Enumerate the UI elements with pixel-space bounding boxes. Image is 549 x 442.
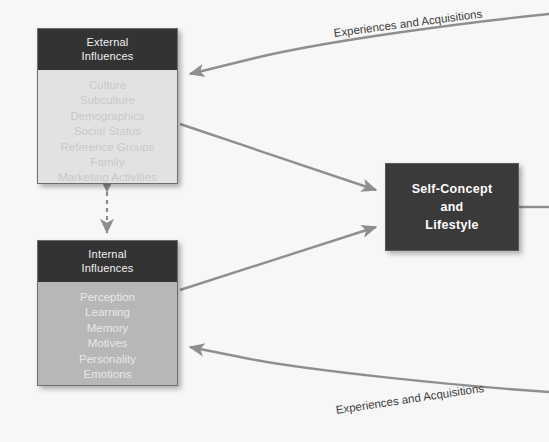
list-item: Subculture: [38, 93, 177, 108]
list-item: Attitudes: [38, 382, 177, 385]
list-item: Culture: [38, 78, 177, 93]
list-item: Social Status: [38, 124, 177, 139]
external-influences-list: Culture Subculture Demographics Social S…: [38, 70, 177, 183]
diagram-canvas: External Influences Culture Subculture D…: [0, 0, 549, 442]
feedback-label-bottom: Experiences and Acquisitions: [335, 382, 485, 416]
internal-header-line1: Internal: [40, 247, 175, 261]
external-header-line2: Influences: [40, 49, 175, 63]
external-header-line1: External: [40, 35, 175, 49]
list-item: Demographics: [38, 109, 177, 124]
list-item: Memory: [38, 321, 177, 336]
external-influences-box[interactable]: External Influences Culture Subculture D…: [37, 28, 178, 184]
list-item: Personality: [38, 352, 177, 367]
arrow-external-to-self: [180, 124, 376, 190]
arrow-internal-to-self: [180, 227, 376, 290]
self-concept-line2: and: [412, 198, 493, 216]
self-concept-line3: Lifestyle: [412, 216, 493, 234]
internal-influences-box[interactable]: Internal Influences Perception Learning …: [37, 240, 178, 386]
list-item: Learning: [38, 305, 177, 320]
internal-influences-header: Internal Influences: [38, 241, 177, 282]
list-item: Emotions: [38, 367, 177, 382]
internal-influences-list: Perception Learning Memory Motives Perso…: [38, 282, 177, 385]
self-concept-line1: Self-Concept: [412, 180, 493, 198]
list-item: Family: [38, 155, 177, 170]
list-item: Motives: [38, 336, 177, 351]
self-concept-label: Self-Concept and Lifestyle: [412, 180, 493, 234]
list-item: Reference Groups: [38, 140, 177, 155]
self-concept-lifestyle-box[interactable]: Self-Concept and Lifestyle: [385, 163, 519, 251]
feedback-curve-bottom: [190, 347, 549, 392]
external-influences-header: External Influences: [38, 29, 177, 70]
internal-header-line2: Influences: [40, 261, 175, 275]
feedback-label-top: Experiences and Acquisitions: [333, 7, 483, 38]
list-item: Marketing Activities: [38, 170, 177, 183]
list-item: Perception: [38, 290, 177, 305]
